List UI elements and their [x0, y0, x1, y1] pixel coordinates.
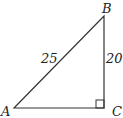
- vertex-label-a: A: [0, 104, 10, 118]
- triangle-diagram: B A C 25 20: [0, 0, 123, 118]
- vertex-label-c: C: [112, 104, 122, 118]
- side-label-bc: 20: [105, 51, 123, 66]
- side-label-ab: 25: [40, 51, 58, 66]
- right-angle-marker: [96, 100, 104, 108]
- triangle-abc: [14, 16, 104, 108]
- vertex-label-b: B: [101, 1, 112, 16]
